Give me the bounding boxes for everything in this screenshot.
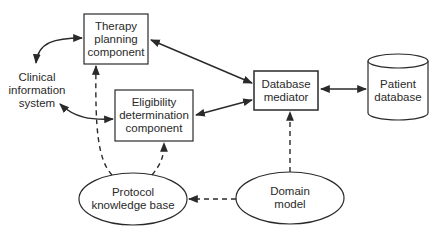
protocol-kb-label: Protocol knowledge base	[83, 186, 183, 212]
database-mediator-label: Database mediator	[254, 78, 318, 104]
eligibility-label: Eligibility determination component	[115, 96, 193, 135]
diagram-canvas	[0, 0, 442, 236]
edge-therapy-mediator	[151, 40, 252, 83]
edge-eligibility-mediator	[196, 100, 252, 115]
edge-protocol-therapy	[96, 66, 112, 175]
therapy-planning-label: Therapy planning component	[84, 20, 148, 59]
edge-protocol-eligibility	[152, 143, 164, 175]
patient-database-label: Patient database	[368, 78, 428, 104]
edge-clinical-therapy	[36, 38, 82, 63]
clinical-info-label: Clinical information system	[4, 71, 70, 110]
domain-model-label: Domain model	[250, 185, 330, 211]
